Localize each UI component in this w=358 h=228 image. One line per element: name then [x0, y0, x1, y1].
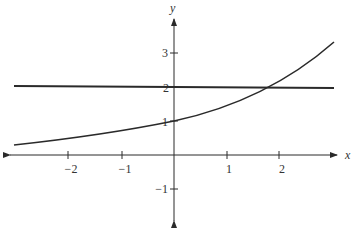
y-tick-label: −1: [155, 182, 168, 196]
x-tick-label: 1: [226, 162, 232, 176]
x-axis-label: x: [344, 148, 351, 162]
x-tick-label: 2: [279, 162, 285, 176]
y-tick-label: 2: [163, 81, 169, 95]
y-axis-label: y: [169, 1, 176, 15]
x-tick-label: −1: [119, 162, 132, 176]
y-tick-label: 3: [162, 46, 168, 60]
x-tick-label: −2: [65, 162, 78, 176]
series-horizontal-line: [14, 86, 334, 88]
chart: −2 −1 1 2 3 2 1 −1 x y: [0, 0, 358, 228]
